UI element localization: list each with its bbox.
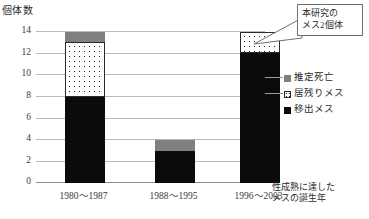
bar-segment-dead (155, 140, 195, 151)
callout-pointer-icon (252, 12, 302, 46)
bar-1996-2003[interactable] (240, 32, 280, 183)
callout-line-2: メス2個体 (302, 20, 358, 32)
x-tick-label-1988-1995: 1988〜1995 (131, 188, 216, 202)
legend-label-dead: 推定死亡 (294, 73, 334, 83)
bar-segment-emigrated (240, 53, 280, 183)
y-tick-label-4: 4 (26, 134, 31, 144)
bar-1988-1995[interactable] (155, 140, 195, 183)
plot-area: 14 12 10 8 6 4 2 0 (36, 31, 265, 183)
y-tick-label-2: 2 (26, 156, 31, 166)
stacked-bar-chart: 個体数 14 12 10 8 6 4 2 0 (0, 0, 369, 219)
x-axis-note-line2: メスの誕生年 (272, 193, 326, 203)
bar-1980-1987[interactable] (65, 32, 105, 183)
legend-item-resident[interactable]: 居残りメス (284, 86, 344, 102)
y-tick-label-10: 10 (22, 69, 32, 79)
x-axis-note: 性成熟に達した メスの誕生年 (272, 182, 335, 205)
x-tick-label-1980-1987: 1980〜1987 (41, 188, 126, 202)
callout-line-1: 本研究の (302, 8, 358, 20)
y-tick-label-8: 8 (26, 91, 31, 101)
bar-segment-emigrated (155, 151, 195, 183)
gray-square-swatch-icon (284, 75, 291, 82)
bar-segment-dead (65, 32, 105, 42)
y-tick-label-14: 14 (22, 26, 32, 36)
bar-segment-resident (65, 42, 105, 96)
y-tick-label-6: 6 (26, 113, 31, 123)
y-tick-label-12: 12 (22, 48, 32, 58)
legend-label-emigrated: 移出メス (294, 105, 334, 115)
legend-item-emigrated[interactable]: 移出メス (284, 102, 344, 118)
bar-segment-emigrated (65, 97, 105, 184)
y-axis-title: 個体数 (2, 2, 33, 17)
x-axis-note-line1: 性成熟に達した (272, 182, 335, 192)
y-tick-label-0: 0 (26, 177, 31, 187)
callout-box: 本研究の メス2個体 (297, 4, 363, 36)
legend-leader-line-resident (265, 93, 283, 94)
black-square-swatch-icon (284, 107, 291, 114)
legend-item-dead[interactable]: 推定死亡 (284, 70, 344, 86)
legend-leader-line-dead (265, 77, 283, 78)
legend-label-resident: 居残りメス (294, 89, 344, 99)
dotted-square-swatch-icon (284, 91, 291, 98)
legend: 推定死亡 居残りメス 移出メス (284, 70, 344, 118)
